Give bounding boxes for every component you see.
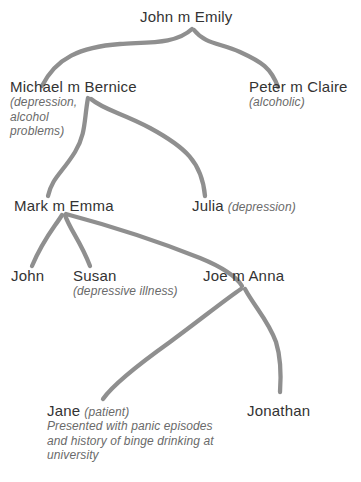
person-name-john: John [11, 267, 44, 284]
person-name-jane: Jane [47, 402, 80, 419]
node-julia[interactable]: Julia (depression) [192, 197, 296, 214]
node-michael-bernice[interactable]: Michael m Bernice (depression, alcohol p… [10, 78, 137, 139]
person-name-julia: Julia [192, 197, 224, 214]
person-note-susan: (depressive illness) [73, 284, 178, 299]
link-joe-anna-to-jonathan [245, 289, 281, 392]
person-description-jane: Presented with panic episodes and histor… [47, 419, 227, 463]
person-name-susan: Susan [73, 267, 178, 284]
person-name-joe-anna: Joe m Anna [203, 267, 284, 284]
node-peter-claire[interactable]: Peter m Claire (alcoholic) [249, 78, 348, 110]
node-jonathan[interactable]: Jonathan [247, 402, 310, 419]
node-susan[interactable]: Susan (depressive illness) [73, 267, 178, 299]
person-heading-jane: Jane (patient) [47, 402, 227, 419]
node-mark-emma[interactable]: Mark m Emma [14, 197, 114, 214]
genogram-diagram: John m Emily Michael m Bernice (depressi… [0, 0, 361, 482]
person-name-john-emily: John m Emily [140, 8, 232, 25]
link-joe-anna-to-jane [103, 289, 241, 399]
person-note-peter-claire: (alcoholic) [249, 95, 348, 110]
link-mark-emma-to-susan [65, 215, 90, 266]
person-note-julia: (depression) [228, 200, 296, 214]
person-name-peter-claire: Peter m Claire [249, 78, 348, 95]
person-name-mark-emma: Mark m Emma [14, 197, 114, 214]
node-joe-anna[interactable]: Joe m Anna [203, 267, 284, 284]
node-john[interactable]: John [11, 267, 44, 284]
person-name-michael-bernice: Michael m Bernice [10, 78, 137, 95]
node-john-emily[interactable]: John m Emily [140, 8, 232, 25]
link-mark-emma-to-john [32, 215, 62, 266]
person-name-jonathan: Jonathan [247, 402, 310, 419]
person-note-jane: (patient) [84, 405, 129, 419]
node-jane[interactable]: Jane (patient) Presented with panic epis… [47, 402, 227, 463]
person-note-michael-bernice: (depression, alcohol problems) [10, 95, 88, 139]
